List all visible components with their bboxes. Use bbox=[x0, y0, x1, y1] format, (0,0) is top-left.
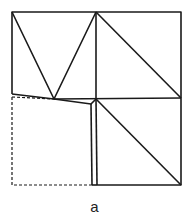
top-left-panel-outline bbox=[12, 12, 96, 94]
top-right-diagonal bbox=[96, 12, 181, 98]
fold-diagram bbox=[0, 0, 189, 217]
v-crease bbox=[12, 12, 96, 99]
figure-caption: a bbox=[0, 198, 189, 215]
midline bbox=[54, 98, 181, 99]
bottom-right-diagonal bbox=[96, 99, 181, 185]
sliver-right bbox=[96, 99, 97, 185]
dashed-region bbox=[12, 97, 92, 185]
sliver-left bbox=[91, 104, 92, 185]
